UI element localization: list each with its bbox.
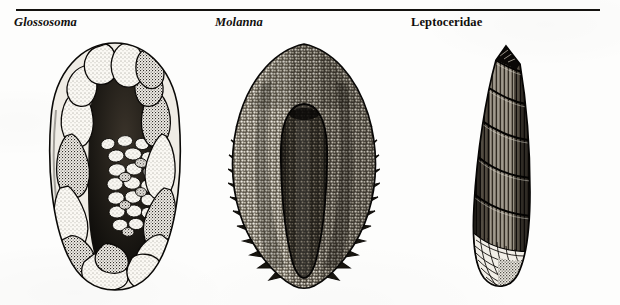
figure-leptoceridae-case bbox=[464, 44, 546, 292]
figure-label-leptoceridae: Leptoceridae bbox=[411, 15, 482, 30]
header-rule bbox=[16, 9, 600, 11]
figure-label-molanna: Molanna bbox=[215, 15, 263, 30]
glossosoma-case-icon bbox=[44, 40, 186, 292]
figure-molanna-case bbox=[228, 42, 380, 292]
figure-glossosoma-case bbox=[44, 40, 186, 292]
leptoceridae-case-icon bbox=[464, 44, 546, 292]
figure-label-glossosoma: Glossosoma bbox=[14, 15, 77, 30]
molanna-case-icon bbox=[228, 42, 380, 292]
illustration-plate: Glossosoma Molanna Leptoceridae bbox=[0, 0, 620, 305]
